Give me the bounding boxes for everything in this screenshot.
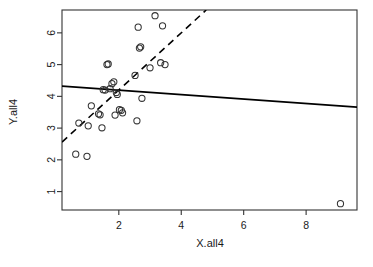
y-tick-label: 6 <box>45 30 57 36</box>
x-axis-label: X.all4 <box>196 237 224 249</box>
scatter-plot-figure: 2468 123456 X.all4 Y.all4 <box>0 0 373 267</box>
x-tick-label: 4 <box>178 219 184 231</box>
y-tick-label: 1 <box>45 189 57 195</box>
x-tick-label: 8 <box>303 219 309 231</box>
plot-canvas: 2468 123456 X.all4 Y.all4 <box>0 0 373 267</box>
y-tick-label: 5 <box>45 62 57 68</box>
figure-background <box>0 0 373 267</box>
y-axis-label: Y.all4 <box>7 99 19 125</box>
y-tick-label: 4 <box>45 93 57 99</box>
y-tick-label: 2 <box>45 157 57 163</box>
x-tick-label: 2 <box>116 219 122 231</box>
x-tick-label: 6 <box>241 219 247 231</box>
y-tick-label: 3 <box>45 125 57 131</box>
